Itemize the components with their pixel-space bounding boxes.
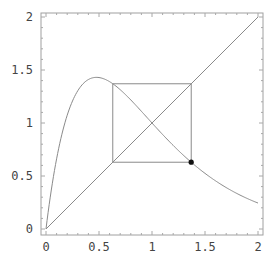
y-tick-label: 2 [26, 10, 33, 24]
y-tick-label: 1.5 [11, 63, 33, 77]
cobweb-chart: 0 0.5 1 1.5 2 0 0.5 1 1.5 2 [0, 0, 276, 261]
x-axis-tick-labels: 0 0.5 1 1.5 2 [42, 240, 261, 254]
x-tick-label: 0 [42, 240, 49, 254]
axis-ticks [41, 13, 263, 235]
plot-frame [41, 13, 263, 235]
y-axis-tick-labels: 0 0.5 1 1.5 2 [11, 10, 33, 236]
marked-point [189, 160, 194, 165]
y-tick-label: 0 [26, 222, 33, 236]
x-tick-label: 2 [254, 240, 261, 254]
x-tick-label: 0.5 [88, 240, 110, 254]
x-tick-label: 1.5 [194, 240, 216, 254]
map-curve [46, 77, 258, 229]
y-tick-label: 0.5 [11, 169, 33, 183]
y-tick-label: 1 [26, 116, 33, 130]
x-tick-label: 1 [148, 240, 155, 254]
